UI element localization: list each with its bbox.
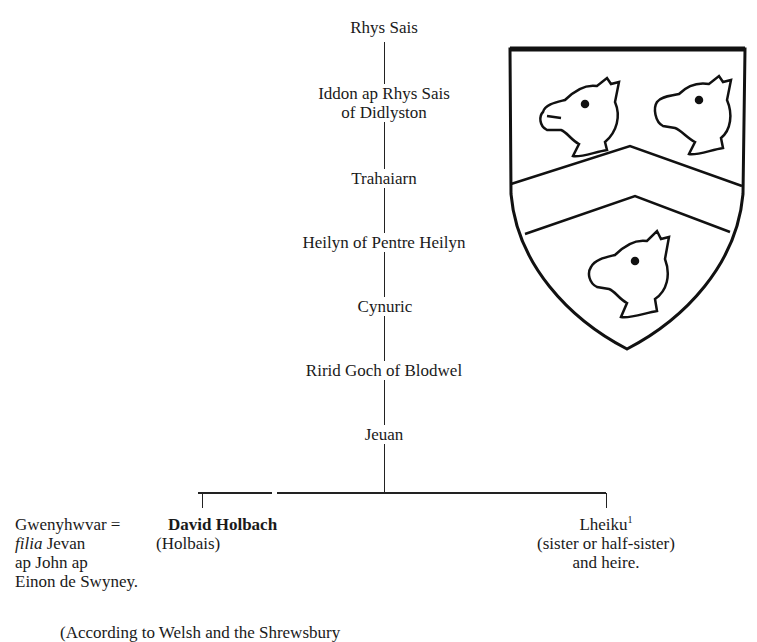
marriage-sign: = [111, 515, 121, 534]
person-name: Iddon ap Rhys Sais [284, 84, 484, 103]
generation-rhys-sais: Rhys Sais [284, 18, 484, 37]
sibling-bar-right [277, 492, 606, 494]
generation-jeuan: Jeuan [350, 425, 418, 444]
son-alias: (Holbais) [156, 534, 277, 553]
coat-of-arms [505, 44, 750, 354]
daughter-heir: and heire. [516, 553, 696, 572]
person-name: Trahaiarn [351, 169, 416, 188]
person-name: Jeuan [365, 425, 404, 444]
spouse-lineage: ap John ap [15, 553, 138, 572]
sibling-bar-left [198, 492, 272, 494]
spouse-filia: filia [15, 534, 42, 553]
daughter-relation: (sister or half-sister) [516, 534, 696, 553]
person-name: Heilyn of Pentre Heilyn [303, 233, 466, 252]
daughter-block: Lheiku1 (sister or half-sister) and heir… [516, 515, 696, 572]
person-name: Rhys Sais [350, 18, 418, 37]
spouse-father: Jevan [42, 534, 85, 553]
drop-line-son [202, 493, 203, 508]
source-note: (According to Welsh and the Shrewsbury [60, 623, 340, 642]
spouse-name: Gwenyhwvar [15, 515, 107, 534]
person-name: Cynuric [358, 297, 413, 316]
son-block: David Holbach (Holbais) [168, 515, 277, 553]
generation-iddon: Iddon ap Rhys Sais of Didlyston [284, 84, 484, 122]
footnote-marker[interactable]: 1 [628, 514, 633, 525]
person-place: of Didlyston [284, 103, 484, 122]
generation-heilyn: Heilyn of Pentre Heilyn [270, 233, 498, 252]
generation-trahaiarn: Trahaiarn [334, 169, 434, 188]
spouse-block: Gwenyhwvar = filia Jevan ap John ap Eino… [15, 515, 138, 591]
son-name: David Holbach [168, 515, 277, 534]
daughter-name: Lheiku [579, 515, 627, 534]
generation-ririd-goch: Ririd Goch of Blodwel [276, 361, 492, 380]
generation-cynuric: Cynuric [340, 297, 430, 316]
drop-line-daughter [606, 493, 607, 508]
person-name: Ririd Goch of Blodwel [306, 361, 462, 380]
spouse-lineage-2: Einon de Swyney. [15, 572, 138, 591]
